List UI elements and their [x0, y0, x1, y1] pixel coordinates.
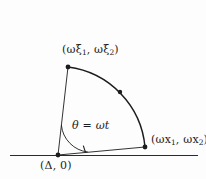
angle-theta-symbol: θ: [72, 119, 79, 132]
right-endpoint-dot: [143, 145, 148, 150]
vertex-dot: [56, 153, 61, 158]
right-point-close: ): [204, 133, 206, 146]
angle-label: θ = ωt: [72, 120, 109, 131]
sector-arc: [68, 67, 145, 147]
upper-point-label: (ωξ1, ωξ2): [62, 44, 119, 56]
right-point-label: (ωx1, ωx2): [151, 134, 206, 146]
radius-right-line: [58, 147, 145, 155]
upper-endpoint-dot: [66, 65, 71, 70]
right-point-mid: , ωx: [176, 133, 199, 146]
upper-point-close: ): [114, 43, 119, 56]
origin-close: , 0): [53, 159, 72, 172]
right-point-open: (ωx: [151, 133, 171, 146]
arc-midpoint-dot: [118, 90, 122, 94]
figure-container: (ωξ1, ωξ2) (ωx1, ωx2) θ = ωt (Δ, 0): [0, 0, 206, 179]
upper-point-mid: , ωξ: [87, 43, 110, 56]
upper-point-open: (ωξ: [62, 43, 82, 56]
angle-equals-symbol: =: [79, 119, 96, 132]
origin-point-label: (Δ, 0): [40, 160, 72, 171]
angle-omega-t: ωt: [96, 119, 110, 132]
radius-upper-line: [58, 67, 68, 155]
geometry-diagram: [0, 0, 206, 179]
origin-delta-symbol: Δ: [45, 159, 53, 172]
